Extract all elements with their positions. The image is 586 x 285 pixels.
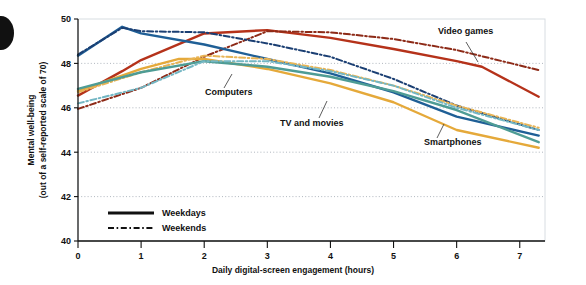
annotation-video-games: Video games xyxy=(438,26,493,36)
x-tick-label: 7 xyxy=(517,251,522,261)
chart-figure: 40424446485001234567 Daily digital-scree… xyxy=(0,0,586,285)
x-tick-label: 6 xyxy=(454,251,459,261)
y-axis-title-line1: Mental well-being xyxy=(26,95,36,166)
annotation-tv-and-movies: TV and movies xyxy=(280,118,344,128)
x-tick-label: 4 xyxy=(328,251,333,261)
x-tick-label: 3 xyxy=(265,251,270,261)
x-tick-label: 1 xyxy=(139,251,144,261)
y-tick-label: 50 xyxy=(61,14,71,24)
y-tick-label: 46 xyxy=(61,103,71,113)
y-tick-label: 44 xyxy=(61,148,71,158)
legend-label-weekdays[interactable]: Weekdays xyxy=(162,208,206,218)
y-tick-label: 42 xyxy=(61,192,71,202)
annotation-computers: Computers xyxy=(205,87,253,97)
y-tick-label: 48 xyxy=(61,59,71,69)
x-tick-label: 2 xyxy=(202,251,207,261)
x-tick-label: 5 xyxy=(391,251,396,261)
line-chart: 40424446485001234567 Daily digital-scree… xyxy=(0,0,586,285)
legend-label-weekends[interactable]: Weekends xyxy=(162,223,206,233)
annotation-smartphones: Smartphones xyxy=(424,137,482,147)
y-tick-label: 40 xyxy=(61,236,71,246)
y-axis-title-line2: (out of a self-reported scale of 70) xyxy=(38,62,48,199)
x-axis-title: Daily digital-screen engagement (hours) xyxy=(212,265,374,275)
x-tick-label: 0 xyxy=(75,251,80,261)
